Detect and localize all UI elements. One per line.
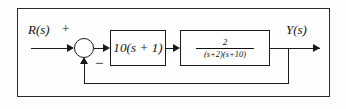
output-arrowhead <box>313 44 320 52</box>
summing-junction-minus-sign: − <box>95 56 103 71</box>
error-signal-wire <box>94 48 103 49</box>
plant-transfer-function: 2 (s+2)(s+10) <box>196 38 254 59</box>
controller-gain-expression: 10(s + 1) <box>113 40 162 56</box>
input-signal-label: R(s) <box>28 22 50 38</box>
feedback-return-wire <box>84 83 289 84</box>
feedback-riser-wire <box>84 64 85 83</box>
plant-transfer-function-block: 2 (s+2)(s+10) <box>180 30 270 66</box>
block-diagram-figure: R(s) + − 10(s + 1) 2 (s+2)(s+10) Y(s) <box>0 0 346 109</box>
input-wire <box>31 48 67 49</box>
feedback-arrowhead <box>80 57 88 64</box>
plant-denominator: (s+2)(s+10) <box>204 49 246 59</box>
output-signal-label: Y(s) <box>286 22 307 38</box>
plant-input-arrowhead <box>173 44 180 52</box>
input-arrowhead <box>67 44 74 52</box>
gain-to-plant-wire <box>166 48 173 49</box>
gain-input-arrowhead <box>103 44 110 52</box>
plant-numerator: 2 <box>223 38 228 48</box>
feedback-tap-wire <box>288 48 289 83</box>
controller-gain-block: 10(s + 1) <box>110 30 166 66</box>
summing-junction <box>74 38 94 58</box>
summing-junction-plus-sign: + <box>62 22 69 35</box>
